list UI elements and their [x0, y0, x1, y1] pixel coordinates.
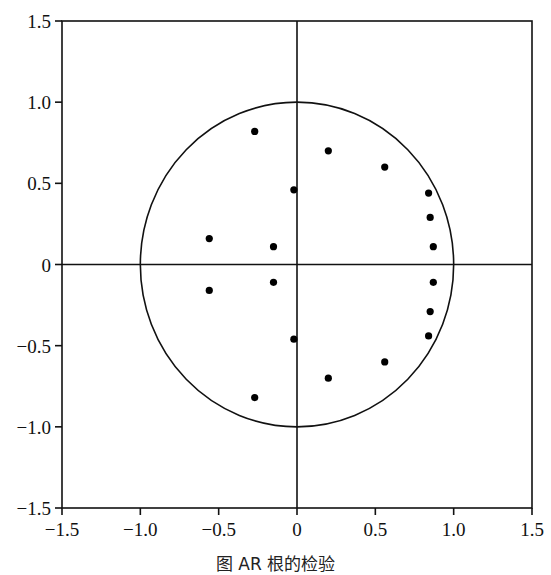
figure-caption: 图 AR 根的检验	[0, 550, 551, 575]
y-tick-label: −1.5	[17, 498, 51, 519]
x-tick-label: 0.5	[363, 519, 387, 540]
x-tick-label: 1.5	[520, 519, 544, 540]
data-point	[425, 332, 432, 339]
data-point	[425, 189, 432, 196]
data-point	[270, 243, 277, 250]
data-point	[430, 243, 437, 250]
data-point	[427, 308, 434, 315]
data-point	[290, 336, 297, 343]
data-point	[325, 147, 332, 154]
y-tick-label: −0.5	[17, 336, 51, 357]
data-point	[381, 164, 388, 171]
data-point	[325, 375, 332, 382]
data-point	[251, 394, 258, 401]
y-axis-ticks: 1.51.00.50−0.5−1.0−1.5	[17, 11, 62, 519]
data-point	[381, 358, 388, 365]
x-tick-label: −1.0	[123, 519, 157, 540]
x-tick-label: −0.5	[201, 519, 235, 540]
y-tick-label: −1.0	[17, 417, 51, 438]
y-tick-label: 1.0	[27, 92, 51, 113]
y-tick-label: 1.5	[27, 11, 51, 32]
y-tick-label: 0	[42, 255, 52, 276]
y-tick-label: 0.5	[27, 173, 51, 194]
x-tick-label: 0	[292, 519, 302, 540]
data-point	[430, 279, 437, 286]
data-point	[290, 186, 297, 193]
reference-lines	[62, 21, 532, 508]
x-tick-label: −1.5	[45, 519, 79, 540]
data-point	[427, 214, 434, 221]
x-axis-ticks: −1.5−1.0−0.500.51.01.5	[45, 508, 544, 540]
data-point	[206, 287, 213, 294]
x-tick-label: 1.0	[442, 519, 466, 540]
data-point	[251, 128, 258, 135]
data-point	[206, 235, 213, 242]
data-point	[270, 279, 277, 286]
